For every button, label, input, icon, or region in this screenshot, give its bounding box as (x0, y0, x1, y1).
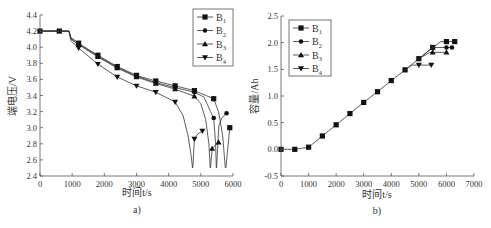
chart-b-legend-marker (298, 25, 303, 30)
chart-b-x-tick-label: 2000 (328, 179, 345, 189)
chart-a-x-tick-label: 2000 (96, 179, 113, 189)
chart-b-panel-label: b) (373, 205, 381, 217)
chart-b-point-B1 (389, 78, 394, 83)
chart-a-x-tick-label: 6000 (225, 179, 242, 189)
chart-b-x-tick-label: 1000 (300, 179, 317, 189)
chart-b-legend-subscript: 2 (319, 42, 322, 49)
chart-b-legend-subscript: 3 (319, 55, 322, 62)
chart-a-xlabel: 时间t/s (122, 186, 152, 198)
chart-a-point-B4 (153, 90, 159, 95)
chart-b-ylabel: 容量/Ah (248, 79, 260, 114)
chart-b-point-B1 (334, 122, 339, 127)
chart-b-point-B1 (347, 111, 352, 116)
chart-a-point-B4 (199, 129, 205, 134)
chart-a-y-tick-label: 3.4 (26, 91, 37, 101)
chart-b: 01000200030004000500060007000-0.50.00.51… (248, 11, 483, 217)
chart-b-series-B4 (405, 63, 434, 70)
chart-a-y-tick-label: 4.0 (26, 42, 37, 52)
chart-a-y-tick-label: 3.2 (26, 107, 37, 117)
chart-a-legend-subscript: 2 (223, 31, 226, 38)
chart-a-point-B4 (95, 62, 101, 67)
chart-b-point-B1 (375, 89, 380, 94)
chart-b-x-tick-label: 5000 (410, 179, 427, 189)
chart-a-point-B4 (172, 100, 178, 105)
chart-b-point-B2 (444, 45, 449, 50)
chart-b-xlabel: 时间t/s (362, 188, 392, 200)
chart-b-legend: B1B2B3B4 (289, 20, 331, 76)
chart-a-y-tick-label: 2.8 (26, 139, 37, 149)
chart-a-x-tick-label: 5000 (192, 179, 209, 189)
chart-b-point-B1 (402, 67, 407, 72)
chart-b-legend-subscript: 1 (319, 28, 322, 35)
chart-a-ylabel: 端电压/V (6, 75, 18, 116)
chart-a-point-B1 (211, 96, 216, 101)
chart-b-y-tick-label: 2.5 (267, 11, 278, 21)
chart-b-point-B1 (306, 145, 311, 150)
chart-b-x-tick-label: 4000 (383, 179, 400, 189)
chart-a-point-B4 (114, 75, 120, 80)
chart-a-x-tick-label: 4000 (160, 179, 177, 189)
chart-a-legend-subscript: 3 (223, 44, 226, 51)
chart-b-y-tick-label: -0.5 (265, 171, 278, 181)
chart-b-y-tick-label: 0.0 (267, 144, 278, 154)
chart-a-x-tick-label: 1000 (64, 179, 81, 189)
chart-a-series-B4 (40, 31, 205, 168)
chart-a-y-tick-label: 3.0 (26, 123, 37, 133)
chart-b-x-tick-label: 3000 (355, 179, 372, 189)
chart-a-point-B4 (191, 137, 197, 142)
chart-a-legend-subscript: 1 (223, 17, 226, 24)
chart-a-line-B4 (40, 31, 193, 168)
chart-b-y-tick-label: 1.5 (267, 64, 278, 74)
chart-b-legend-marker (299, 39, 304, 44)
chart-a-x-tick-label: 0 (38, 179, 42, 189)
chart-a-recovery-line-B1 (226, 128, 230, 168)
chart-b-x-tick-label: 0 (279, 179, 283, 189)
chart-a-y-tick-label: 2.6 (26, 155, 37, 165)
chart-b-series-B3 (419, 49, 450, 58)
chart-b-point-B1 (444, 39, 449, 44)
chart-a-y-tick-label: 3.8 (26, 58, 37, 68)
chart-a-y-tick-label: 3.6 (26, 74, 37, 84)
chart-b-point-B1 (361, 100, 366, 105)
chart-a-point-B3 (216, 139, 222, 144)
chart-b-x-tick-label: 6000 (438, 179, 455, 189)
chart-a-point-B2 (224, 111, 229, 116)
chart-a-legend-marker (202, 14, 207, 19)
chart-b-point-B1 (292, 147, 297, 152)
chart-b-point-B2 (450, 45, 455, 50)
chart-b-point-B1 (452, 39, 457, 44)
chart-b-y-tick-label: 2.0 (267, 38, 278, 48)
chart-b-y-tick-label: 1.0 (267, 91, 278, 101)
chart-a-panel-label: a) (133, 204, 141, 216)
chart-a-legend-marker (203, 28, 208, 33)
chart-a-legend: B1B2B3B4 (193, 9, 233, 66)
chart-a: 01000200030004000500060002.42.62.83.03.2… (6, 9, 242, 216)
chart-b-x-tick-label: 7000 (466, 179, 483, 189)
figure: 01000200030004000500060002.42.62.83.03.2… (0, 0, 491, 228)
chart-a-y-tick-label: 2.4 (26, 171, 37, 181)
chart-b-point-B3 (443, 49, 449, 54)
chart-a-point-B2 (211, 116, 216, 121)
chart-a-line-B3 (40, 31, 210, 168)
chart-a-recovery-line-B4 (193, 131, 203, 168)
chart-b-point-B1 (320, 133, 325, 138)
chart-a-y-tick-label: 4.4 (26, 10, 37, 20)
chart-a-point-B1 (227, 125, 232, 130)
chart-b-y-tick-label: 0.5 (267, 118, 278, 128)
chart-a-y-tick-label: 4.2 (26, 26, 37, 36)
